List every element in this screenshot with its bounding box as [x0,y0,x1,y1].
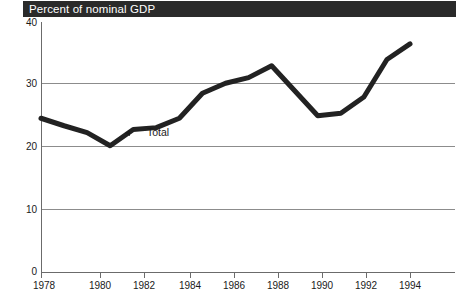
left-arrow-icon [125,130,130,136]
series-annotation-total: Total [147,126,169,138]
chart-figure: Percent of nominal GDP 40 30 20 10 0 197… [0,0,456,299]
series-total [0,0,456,299]
